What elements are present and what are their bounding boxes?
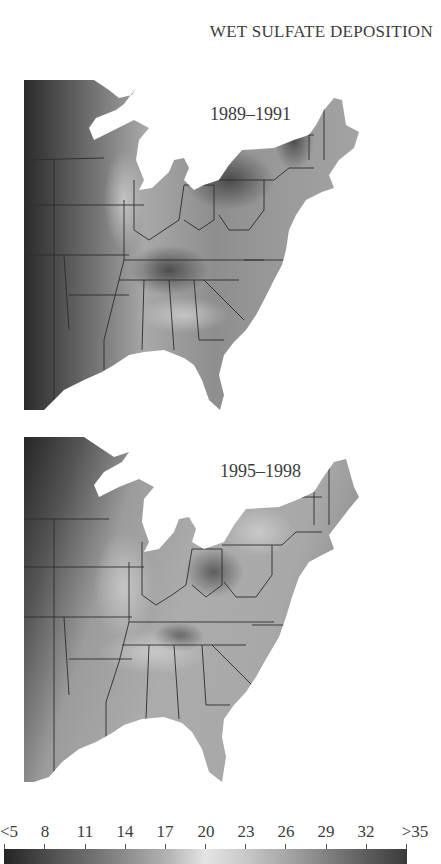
legend-tick: 8 [41, 822, 50, 842]
legend-tick: 14 [117, 822, 134, 842]
legend-tick: 23 [238, 822, 255, 842]
legend-tick: 29 [318, 822, 335, 842]
legend-tick: 11 [77, 822, 93, 842]
color-legend: <5 8 11 14 17 20 23 26 29 32 >35 [0, 822, 441, 864]
eastern-us-map [24, 437, 379, 782]
legend-tick: <5 [0, 822, 18, 842]
legend-tick: 17 [157, 822, 174, 842]
figure-title: WET SULFATE DEPOSITION [210, 22, 433, 42]
legend-tick: 32 [358, 822, 375, 842]
period-label: 1989–1991 [210, 104, 291, 125]
eastern-us-map [24, 80, 369, 410]
legend-tick: 26 [278, 822, 295, 842]
period-label: 1995–1998 [220, 461, 301, 482]
colorbar [4, 849, 407, 864]
legend-tick: >35 [402, 822, 429, 842]
map-1989-1991: 1989–1991 [24, 80, 369, 410]
legend-tick: 20 [198, 822, 215, 842]
map-1995-1998: 1995–1998 [24, 437, 379, 782]
